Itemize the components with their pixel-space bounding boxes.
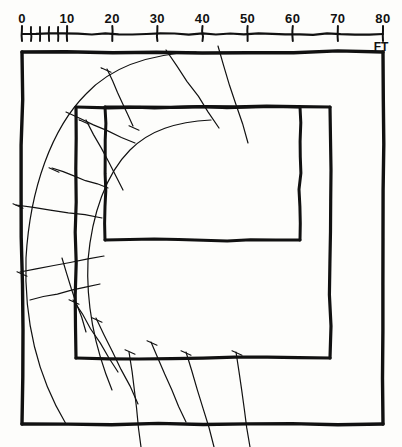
cross-mark-0 — [101, 68, 111, 73]
radial-line-5 — [52, 168, 108, 188]
outer-wall-side-0 — [22, 51, 383, 53]
scale-tick-minor-2 — [31, 27, 32, 41]
radial-line-10 — [73, 300, 118, 372]
inner-wall-side-3 — [105, 107, 106, 240]
scale-tick-major-30 — [157, 26, 158, 41]
scale-label-60: 60 — [285, 11, 300, 26]
scale-label-80: 80 — [375, 11, 390, 26]
scale-label-70: 70 — [330, 11, 345, 26]
middle-wall-side-2 — [76, 357, 330, 359]
scale-label-30: 30 — [150, 11, 165, 26]
drawing-canvas: 01020304050607080FT — [0, 0, 402, 447]
middle-wall-side-3 — [75, 107, 76, 358]
radial-line-13 — [151, 342, 186, 422]
scale-bar: 01020304050607080FT — [18, 11, 391, 54]
radial-line-6 — [16, 205, 102, 218]
radial-line-1 — [218, 46, 248, 143]
scale-label-50: 50 — [240, 11, 255, 26]
scale-label-20: 20 — [105, 11, 120, 26]
inner-wall-side-2 — [105, 239, 300, 241]
middle-wall-side-1 — [329, 107, 331, 358]
plan-group — [13, 46, 384, 447]
scale-tick-major-40 — [202, 26, 203, 41]
outer-wall-side-3 — [21, 52, 23, 424]
outer-wall-side-1 — [383, 52, 384, 424]
radial-line-11 — [96, 318, 138, 404]
radial-line-8 — [30, 284, 100, 300]
radial-line-2 — [107, 69, 133, 126]
cross-mark-7 — [92, 318, 102, 323]
scale-label-0: 0 — [18, 11, 26, 26]
inner-wall-side-0 — [105, 106, 300, 108]
scale-label-10: 10 — [59, 11, 74, 26]
radial-line-12 — [129, 352, 141, 447]
cross-mark-8 — [125, 350, 135, 355]
scale-label-40: 40 — [195, 11, 210, 26]
radial-line-14 — [186, 352, 214, 447]
cross-mark-1 — [129, 126, 139, 131]
inner-wall-side-1 — [299, 107, 301, 240]
radial-line-15 — [236, 352, 250, 447]
outer-wall-side-2 — [22, 423, 383, 424]
radial-line-0 — [166, 50, 219, 128]
site-plan-svg: 01020304050607080FT — [0, 0, 402, 447]
